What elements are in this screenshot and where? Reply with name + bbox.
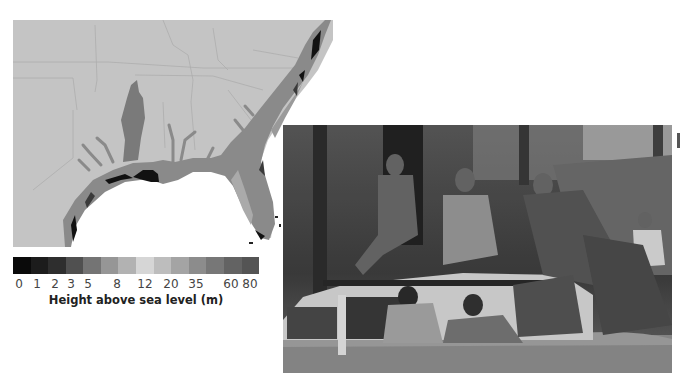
legend-title: Height above sea level (m) bbox=[12, 293, 260, 307]
legend-swatch bbox=[242, 257, 260, 274]
legend-swatch bbox=[66, 257, 84, 274]
legend-tick-label: 1 bbox=[33, 277, 41, 291]
legend-swatch bbox=[189, 257, 207, 274]
legend-tick-label: 3 bbox=[67, 277, 75, 291]
legend-tick-label: 60 bbox=[223, 277, 238, 291]
legend-swatch bbox=[171, 257, 189, 274]
legend-swatch bbox=[48, 257, 66, 274]
elevation-legend: 0 1 2 3 5 8 12 20 35 60 80 bbox=[13, 257, 260, 293]
legend-swatch bbox=[101, 257, 119, 274]
legend-swatch bbox=[154, 257, 172, 274]
photo-graphic bbox=[283, 125, 672, 373]
legend-tick-label: 80 bbox=[242, 277, 257, 291]
legend-swatch bbox=[83, 257, 101, 274]
legend-swatch bbox=[224, 257, 242, 274]
legend-tick-label: 2 bbox=[51, 277, 59, 291]
legend-ticks: 0 1 2 3 5 8 12 20 35 60 80 bbox=[13, 277, 260, 293]
legend-swatch bbox=[118, 257, 136, 274]
legend-tick-label: 5 bbox=[84, 277, 92, 291]
legend-swatch bbox=[136, 257, 154, 274]
legend-tick-label: 35 bbox=[188, 277, 203, 291]
legend-tick-label: 0 bbox=[15, 277, 23, 291]
legend-tick-label: 8 bbox=[113, 277, 121, 291]
flood-rescue-photo bbox=[283, 125, 672, 373]
legend-swatch bbox=[206, 257, 224, 274]
legend-swatch bbox=[13, 257, 31, 274]
legend-tick-label: 20 bbox=[163, 277, 178, 291]
edge-mark bbox=[677, 133, 680, 148]
legend-color-bar bbox=[13, 257, 259, 274]
legend-swatch bbox=[31, 257, 49, 274]
legend-tick-label: 12 bbox=[137, 277, 152, 291]
